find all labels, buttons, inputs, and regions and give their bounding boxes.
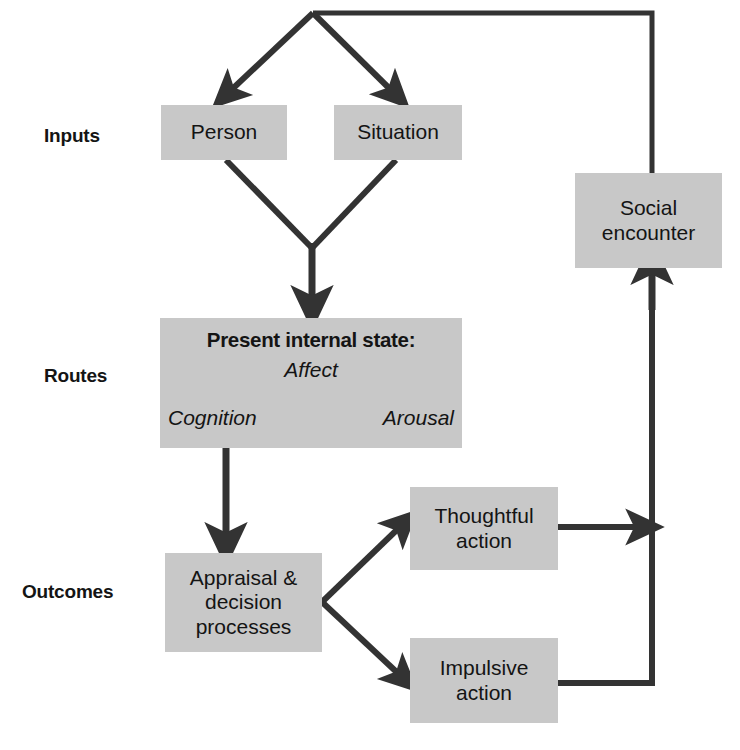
edge-impulsive-to-riser: [558, 300, 652, 683]
term-cognition: Cognition: [168, 406, 257, 430]
node-thoughtful-action[interactable]: Thoughtful action: [410, 487, 558, 570]
internal-state-terms: Affect Cognition Arousal: [160, 352, 462, 438]
node-social-encounter-label: Social encounter: [602, 196, 695, 245]
stage-label-inputs: Inputs: [44, 125, 100, 147]
edge-situation-to-junction: [313, 160, 396, 247]
edge-appraisal-to-impulsive: [322, 602, 404, 679]
stage-label-outcomes: Outcomes: [22, 581, 113, 603]
node-situation[interactable]: Situation: [334, 105, 462, 160]
node-social-encounter[interactable]: Social encounter: [575, 173, 722, 268]
term-arousal: Arousal: [383, 406, 454, 430]
node-person[interactable]: Person: [161, 105, 287, 160]
diagram-root: Inputs Routes Outcomes Person Situation …: [0, 0, 740, 750]
node-situation-label: Situation: [357, 120, 439, 144]
node-impulsive-action[interactable]: Impulsive action: [410, 638, 558, 723]
edge-appraisal-to-thoughtful: [322, 523, 404, 602]
node-appraisal[interactable]: Appraisal & decision processes: [165, 553, 322, 652]
edge-feedback-to-situation: [313, 13, 396, 95]
term-affect: Affect: [284, 358, 338, 382]
edge-feedback-to-person: [226, 13, 313, 95]
node-appraisal-label: Appraisal & decision processes: [190, 566, 297, 639]
internal-state-title: Present internal state:: [160, 328, 462, 352]
edge-inputs-to-state: [226, 160, 396, 308]
edge-person-to-junction: [226, 160, 311, 247]
edge-appraisal-branch: [322, 523, 404, 679]
node-thoughtful-action-label: Thoughtful action: [434, 504, 533, 553]
stage-label-routes: Routes: [44, 365, 107, 387]
node-person-label: Person: [191, 120, 258, 144]
node-internal-state[interactable]: Present internal state: Affect Cognition…: [160, 318, 462, 448]
node-impulsive-action-label: Impulsive action: [440, 656, 529, 705]
